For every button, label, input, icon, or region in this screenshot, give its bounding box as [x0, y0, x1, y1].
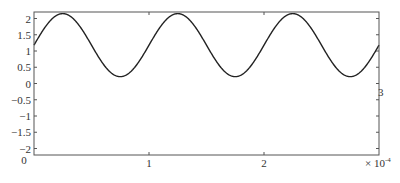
x-multiplier-exponent: -4	[385, 156, 391, 164]
y-tick-label: 1.5	[17, 29, 31, 41]
x-tick-label: 2	[261, 157, 267, 169]
y-tick-label: 0	[26, 78, 32, 90]
y-tick-label: 1	[26, 45, 32, 57]
x-tick-label: 1	[146, 157, 152, 169]
x-origin-label: 0	[21, 154, 27, 166]
x-multiplier-base: × 10	[365, 157, 385, 169]
y-tick-label: −0.5	[11, 94, 31, 106]
y-tick-label: −1	[19, 110, 31, 122]
axes-box	[34, 12, 379, 155]
y-tick-label: −1.5	[11, 126, 31, 138]
y-tick-label: 0.5	[17, 61, 31, 73]
line-chart: 21.510.50−0.5−1−1.5−212 0 × 10-4 3	[0, 0, 400, 183]
plot-curve	[34, 14, 379, 77]
y-tick-label: −2	[19, 143, 31, 155]
x-multiplier-label: × 10-4	[365, 156, 391, 169]
y-tick-label: 2	[26, 13, 32, 25]
tick-labels: 21.510.50−0.5−1−1.5−212	[11, 13, 267, 170]
axis-ticks	[34, 12, 379, 155]
signal-line	[34, 14, 379, 77]
stray-right-label: 3	[378, 86, 384, 98]
